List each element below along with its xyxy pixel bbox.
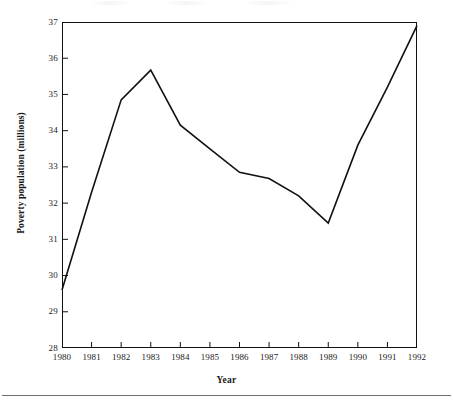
x-tick-label: 1992 [397,352,437,362]
chart-canvas [0,0,453,401]
footer-rule [2,395,451,396]
chart-figure: 28293031323334353637 Poverty population … [0,0,453,401]
data-series-line [62,26,417,290]
x-axis-title: Year [0,375,453,385]
tick-marks [62,58,387,348]
x-axis-tick-labels: 1980198119821983198419851986198719881989… [0,352,453,368]
